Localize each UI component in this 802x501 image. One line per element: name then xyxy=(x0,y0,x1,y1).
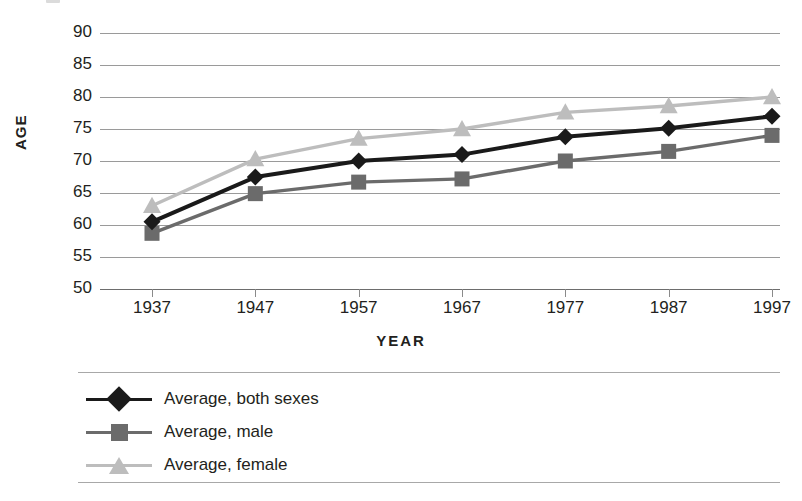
x-axis-tick-label: 1997 xyxy=(732,298,802,318)
legend-divider-top xyxy=(78,372,780,373)
plot-area: AGE 505560657075808590 19371947195719671… xyxy=(0,0,802,360)
legend-label: Average, female xyxy=(164,455,287,475)
data-point-marker xyxy=(660,120,677,137)
life-expectancy-chart-figure: AGE 505560657075808590 19371947195719671… xyxy=(0,0,802,501)
x-axis-title: YEAR xyxy=(0,332,802,349)
chart-legend: Average, both sexesAverage, maleAverage,… xyxy=(0,366,802,496)
legend-item: Average, both sexes xyxy=(86,384,319,414)
data-point-marker xyxy=(454,146,471,163)
legend-item: Average, male xyxy=(86,417,273,447)
x-axis-tick-mark xyxy=(359,289,360,297)
x-axis-tick-mark xyxy=(565,289,566,297)
x-axis-tick-label: 1947 xyxy=(215,298,295,318)
data-point-marker xyxy=(661,144,676,159)
legend-item: Average, female xyxy=(86,450,287,480)
x-axis-tick-label: 1977 xyxy=(525,298,605,318)
legend-label: Average, male xyxy=(164,422,273,442)
legend-marker-diamond-icon xyxy=(108,388,130,410)
data-point-marker xyxy=(247,169,264,186)
data-point-marker xyxy=(557,128,574,145)
x-axis-tick-mark xyxy=(462,289,463,297)
x-axis-tick-label: 1937 xyxy=(112,298,192,318)
data-point-marker xyxy=(558,154,573,169)
data-point-marker xyxy=(455,171,470,186)
x-axis-tick-mark xyxy=(255,289,256,297)
legend-swatch xyxy=(86,388,152,410)
x-axis-tick-mark xyxy=(152,289,153,297)
legend-marker-triangle-icon xyxy=(108,454,130,476)
legend-divider-bottom xyxy=(78,482,780,483)
data-point-marker xyxy=(143,197,161,213)
x-axis-tick-label: 1957 xyxy=(319,298,399,318)
data-point-marker xyxy=(351,175,366,190)
legend-swatch xyxy=(86,421,152,443)
data-point-marker xyxy=(765,128,780,143)
data-point-marker xyxy=(764,108,781,125)
legend-swatch xyxy=(86,454,152,476)
legend-marker-square-icon xyxy=(108,421,130,443)
data-point-marker xyxy=(248,186,263,201)
data-point-marker xyxy=(350,153,367,170)
x-axis-tick-mark xyxy=(772,289,773,297)
x-axis-tick-label: 1967 xyxy=(422,298,502,318)
x-axis-tick-mark xyxy=(669,289,670,297)
x-axis-tick-label: 1987 xyxy=(629,298,709,318)
legend-label: Average, both sexes xyxy=(164,389,319,409)
